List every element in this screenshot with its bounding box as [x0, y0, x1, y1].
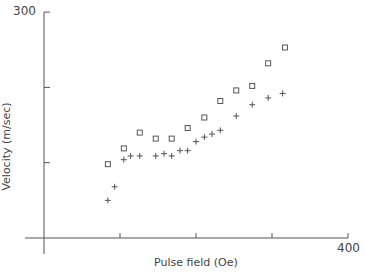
x-max-tick-label: 400: [337, 241, 360, 255]
plus-marker: [265, 95, 271, 101]
scatter-plot: [0, 0, 366, 272]
square-marker: [185, 126, 190, 131]
plus-marker: [209, 131, 215, 137]
y-max-tick-label: 300: [13, 4, 36, 18]
plus-marker: [169, 153, 175, 159]
plus-marker: [177, 148, 183, 154]
square-marker: [218, 98, 223, 103]
plus-marker: [185, 148, 191, 154]
square-marker: [202, 115, 207, 120]
plus-marker: [137, 153, 143, 159]
square-marker: [282, 45, 287, 50]
y-axis-label: Velocity (m/sec): [0, 87, 13, 207]
plus-marker: [128, 153, 134, 159]
plus-marker: [193, 139, 199, 145]
plus-marker: [112, 184, 118, 190]
plus-marker: [153, 153, 159, 159]
square-marker: [169, 136, 174, 141]
plus-marker: [280, 90, 286, 96]
plus-marker: [217, 127, 223, 133]
square-marker: [153, 136, 158, 141]
square-marker: [250, 83, 255, 88]
plus-marker: [121, 157, 127, 163]
square-marker: [266, 61, 271, 66]
square-marker: [121, 146, 126, 151]
plus-marker: [161, 151, 167, 157]
plus-marker: [249, 102, 255, 108]
square-marker: [105, 162, 110, 167]
plus-marker: [201, 134, 207, 140]
x-axis-label: Pulse field (Oe): [154, 256, 238, 269]
square-marker: [137, 130, 142, 135]
square-marker: [234, 88, 239, 93]
plus-marker: [105, 197, 111, 203]
plus-marker: [233, 113, 239, 119]
